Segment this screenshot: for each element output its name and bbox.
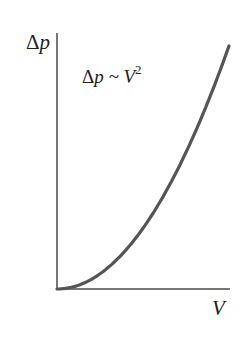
y-axis-label: Δp (26, 30, 50, 55)
formula-annotation: Δp ~ V2 (82, 62, 142, 88)
x-axis-label: V (212, 296, 225, 321)
